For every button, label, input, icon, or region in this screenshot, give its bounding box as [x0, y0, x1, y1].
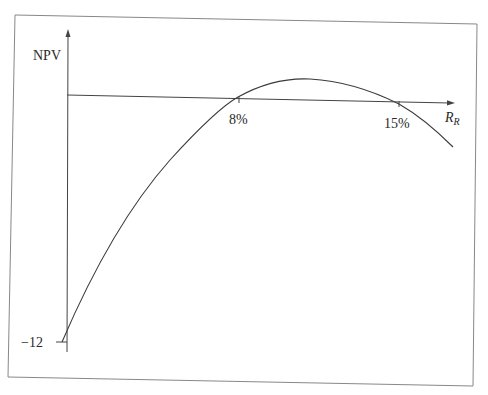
y-tick-label-neg12: −12 [21, 335, 43, 350]
y-axis-label: NPV [33, 48, 61, 63]
y-axis [67, 34, 68, 352]
chart-frame [8, 15, 477, 386]
x-axis-label: RR [444, 110, 460, 127]
x-tick-label-15: 15% [384, 116, 410, 131]
x-tick-label-8: 8% [229, 112, 248, 127]
y-axis-arrow-icon [66, 29, 71, 37]
x-axis-label-subscript: R [453, 116, 460, 127]
x-axis-label-main: R [444, 110, 454, 125]
npv-profile-chart: NPV 8% 15% −12 RR [0, 0, 488, 395]
x-axis-arrow-icon [447, 100, 455, 105]
x-axis [67, 95, 450, 103]
